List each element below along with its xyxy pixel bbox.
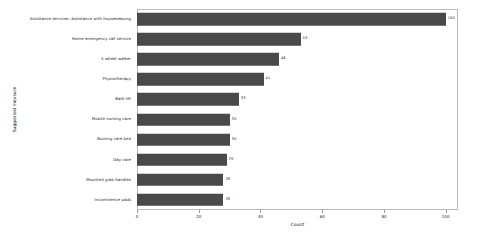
bar bbox=[137, 53, 279, 66]
bar bbox=[137, 33, 301, 46]
bar-value-label: 41 bbox=[266, 78, 271, 82]
x-axis-ticks: 020406080100 bbox=[137, 210, 458, 222]
bar-row: 41 bbox=[137, 69, 458, 89]
bar-row: 30 bbox=[137, 130, 458, 150]
y-axis-tick-label: 4 wheel walker bbox=[101, 49, 131, 69]
bar-value-label: 30 bbox=[232, 118, 237, 122]
y-axis-tick-label: Physiotherapy bbox=[103, 69, 131, 89]
bar-row: 29 bbox=[137, 150, 458, 170]
bar-chart-figure: Assistance services: assistance with hou… bbox=[0, 0, 479, 238]
y-axis-tick-label: Mobile nursing care bbox=[92, 110, 131, 130]
bar-value-label: 28 bbox=[225, 178, 230, 182]
y-axis-tick-label: Bath lift bbox=[115, 89, 131, 109]
x-axis-tick-label: 80 bbox=[381, 214, 386, 219]
x-axis-tick-mark bbox=[322, 210, 323, 213]
bar-value-label: 46 bbox=[281, 57, 286, 61]
x-axis-tick-mark bbox=[137, 210, 138, 213]
y-axis-title-text: Suggested measure bbox=[13, 87, 18, 133]
bar bbox=[137, 73, 264, 86]
y-axis-tick-label: Incontinence pads bbox=[95, 190, 132, 210]
bar bbox=[137, 13, 446, 26]
x-axis-tick-mark bbox=[199, 210, 200, 213]
bar-value-label: 29 bbox=[229, 158, 234, 162]
bar-row: 100 bbox=[137, 9, 458, 29]
bar bbox=[137, 174, 223, 187]
bar-series: 100534641333030292828 bbox=[137, 9, 458, 210]
bar-value-label: 33 bbox=[241, 98, 246, 102]
x-axis-tick-label: 60 bbox=[320, 214, 325, 219]
x-axis-tick-label: 0 bbox=[136, 214, 139, 219]
y-axis-tick-label: Day care bbox=[113, 150, 131, 170]
y-axis-title: Suggested measure bbox=[9, 9, 21, 210]
bar-row: 46 bbox=[137, 49, 458, 69]
bar bbox=[137, 133, 230, 146]
y-axis-tick-label: Home emergency call service bbox=[72, 29, 131, 49]
y-axis-tick-label: Mounted grab handles bbox=[86, 170, 131, 190]
bar bbox=[137, 194, 223, 207]
bar-value-label: 100 bbox=[448, 17, 455, 21]
x-axis-tick-mark bbox=[260, 210, 261, 213]
bar bbox=[137, 153, 227, 166]
x-axis-tick-mark bbox=[384, 210, 385, 213]
bar-row: 33 bbox=[137, 89, 458, 109]
x-axis-title: Count bbox=[137, 222, 458, 227]
x-axis-tick-label: 20 bbox=[196, 214, 201, 219]
y-axis-tick-label: Nursing care bed bbox=[97, 130, 131, 150]
bar bbox=[137, 113, 230, 126]
x-axis-tick-label: 40 bbox=[258, 214, 263, 219]
x-axis-tick-mark bbox=[446, 210, 447, 213]
x-axis-tick-label: 100 bbox=[442, 214, 450, 219]
bar-row: 53 bbox=[137, 29, 458, 49]
bar-value-label: 53 bbox=[303, 37, 308, 41]
bar-row: 28 bbox=[137, 190, 458, 210]
bar-row: 28 bbox=[137, 170, 458, 190]
bar-value-label: 30 bbox=[232, 138, 237, 142]
y-axis-tick-label: Assistance services: assistance with hou… bbox=[30, 9, 131, 29]
bar-row: 30 bbox=[137, 110, 458, 130]
bar-value-label: 28 bbox=[225, 198, 230, 202]
bar bbox=[137, 93, 239, 106]
